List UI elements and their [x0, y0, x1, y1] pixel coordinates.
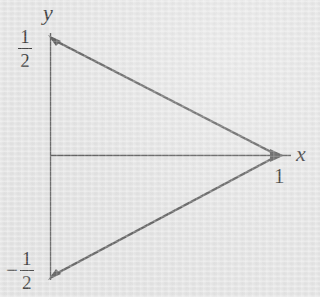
- x-tick-label-1: 1: [274, 166, 285, 187]
- x-axis-label: x: [296, 143, 306, 165]
- y-tick-label-positive-half: 1 2: [18, 27, 32, 70]
- figure-canvas: y x 1 1 2 − 1 2: [0, 0, 320, 297]
- fraction-denominator: 2: [19, 51, 31, 70]
- y-tick-label-negative-half: − 1 2: [6, 249, 34, 292]
- fraction-denominator: 2: [21, 273, 33, 292]
- fraction-numerator: 1: [21, 249, 33, 268]
- minus-sign-icon: −: [6, 258, 18, 283]
- lower-boundary-segment: [52, 156, 277, 276]
- plot-area: [0, 0, 320, 297]
- y-axis-label: y: [43, 2, 53, 24]
- fraction-one-half: 1 2: [18, 27, 32, 70]
- upper-boundary-segment: [52, 39, 277, 155]
- fraction-one-half: 1 2: [20, 249, 34, 292]
- arrowhead-right-icon: [270, 149, 284, 162]
- fraction-numerator: 1: [19, 27, 31, 46]
